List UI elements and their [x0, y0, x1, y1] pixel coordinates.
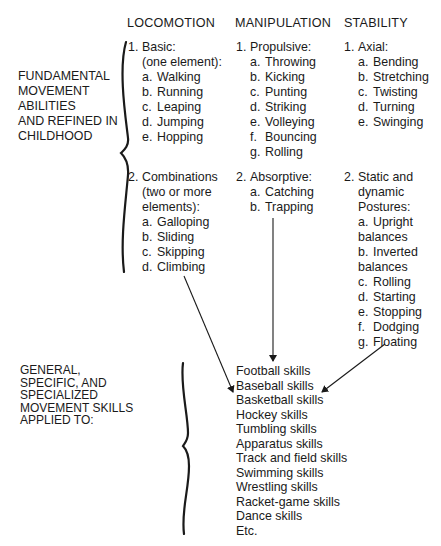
list-item: a.Galloping [128, 215, 218, 230]
group-title: Basic: [142, 40, 176, 54]
applied-skills-list: Football skills Baseball skills Basketba… [236, 364, 347, 538]
locomotion-combinations-group: 2.Combinations (two or more elements): a… [128, 170, 218, 275]
list-item: c.Twisting [344, 85, 429, 100]
stability-axial-group: 1.Axial: a.Bending b.Stretching c.Twisti… [344, 40, 429, 130]
list-item: f.Dodging [344, 320, 422, 335]
group-title: Absorptive: [250, 170, 312, 184]
list-item: g.Rolling [236, 145, 317, 160]
list-item: balances [344, 230, 422, 245]
group-number: 2. [128, 170, 142, 185]
header-stability: STABILITY [344, 16, 408, 30]
label-line: ABILITIES [18, 99, 118, 114]
group-number: 1. [128, 40, 142, 55]
list-item: a.Catching [236, 185, 314, 200]
list-item: a.Bending [344, 55, 429, 70]
group-subtitle: elements): [142, 200, 200, 214]
group-subtitle: (one element): [142, 55, 222, 69]
list-item: b.Kicking [236, 70, 317, 85]
group-title: dynamic [358, 185, 404, 199]
list-item: e.Stopping [344, 305, 422, 320]
list-item: e.Swinging [344, 115, 429, 130]
manipulation-propulsive-group: 1.Propulsive: a.Throwing b.Kicking c.Pun… [236, 40, 317, 160]
list-item: c.Skipping [128, 245, 218, 260]
list-item: b.Sliding [128, 230, 218, 245]
group-title: Combinations [142, 170, 218, 184]
skill-item: Track and field skills [236, 451, 347, 466]
skill-item: Swimming skills [236, 466, 347, 481]
list-item: a.Throwing [236, 55, 317, 70]
skill-item: Hockey skills [236, 408, 347, 423]
group-subtitle: (two or more [142, 185, 212, 199]
list-item: e.Volleying [236, 115, 317, 130]
label-line: FUNDAMENTAL [18, 69, 118, 84]
list-item: g.Floating [344, 335, 422, 350]
locomotion-basic-group: 1.Basic: (one element): a.Walking b.Runn… [128, 40, 222, 145]
label-general-skills: GENERAL, SPECIFIC, AND SPECIALIZED MOVEM… [20, 364, 133, 427]
label-line: MOVEMENT [18, 84, 118, 99]
list-item: b.Stretching [344, 70, 429, 85]
group-number: 2. [344, 170, 358, 185]
label-line: APPLIED TO: [20, 414, 133, 427]
label-line: SPECIALIZED [20, 389, 133, 402]
manipulation-absorptive-group: 2.Absorptive: a.Catching b.Trapping [236, 170, 314, 215]
skill-item: Racket-game skills [236, 495, 347, 510]
curly-brace-general [182, 363, 189, 534]
label-fundamental-movement: FUNDAMENTAL MOVEMENT ABILITIES AND REFIN… [18, 69, 118, 144]
arrow-locomotion-to-skills [184, 276, 233, 392]
skill-item: Wrestling skills [236, 480, 347, 495]
list-item: d.Striking [236, 100, 317, 115]
list-item: f.Bouncing [236, 130, 317, 145]
skill-item: Tumbling skills [236, 422, 347, 437]
list-item: b.Trapping [236, 200, 314, 215]
group-title: Axial: [358, 40, 388, 54]
group-number: 2. [236, 170, 250, 185]
list-item: e.Hopping [128, 130, 222, 145]
group-title: Postures: [358, 200, 410, 214]
list-item: d.Turning [344, 100, 429, 115]
skill-item: Dance skills [236, 509, 347, 524]
label-line: GENERAL, [20, 364, 133, 377]
skill-item: Football skills [236, 364, 347, 379]
list-item: a.Upright [344, 215, 422, 230]
list-item: c.Rolling [344, 275, 422, 290]
skill-item: Apparatus skills [236, 437, 347, 452]
list-item: b.Running [128, 85, 222, 100]
header-manipulation: MANIPULATION [235, 16, 331, 30]
list-item: d.Climbing [128, 260, 218, 275]
header-locomotion: LOCOMOTION [127, 16, 215, 30]
group-title: Static and [358, 170, 413, 184]
skill-item: Baseball skills [236, 379, 347, 394]
group-number: 1. [344, 40, 358, 55]
group-number: 1. [236, 40, 250, 55]
list-item: c.Leaping [128, 100, 222, 115]
list-item: d.Jumping [128, 115, 222, 130]
skill-item: Basketball skills [236, 393, 347, 408]
skill-item: Etc. [236, 524, 347, 539]
list-item: b.Inverted [344, 245, 422, 260]
list-item: c.Punting [236, 85, 317, 100]
label-line: CHILDHOOD [18, 129, 118, 144]
list-item: d.Starting [344, 290, 422, 305]
list-item: balances [344, 260, 422, 275]
stability-postures-group: 2.Static and dynamic Postures: a.Upright… [344, 170, 422, 350]
group-title: Propulsive: [250, 40, 311, 54]
list-item: a.Walking [128, 70, 222, 85]
label-line: AND REFINED IN [18, 114, 118, 129]
